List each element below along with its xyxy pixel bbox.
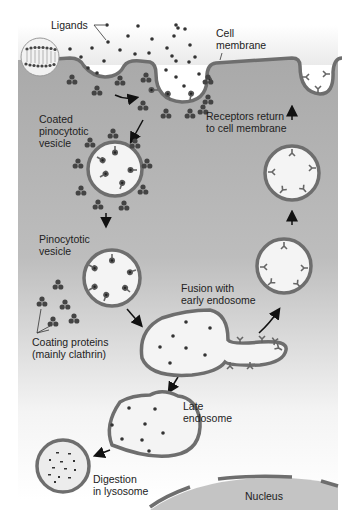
endocytosis-diagram: [0, 0, 357, 515]
label-ligands: Ligands: [51, 19, 88, 31]
recycling-vesicle-upper: [265, 146, 319, 200]
label-cell-membrane: Cell membrane: [216, 27, 266, 51]
label-late-endosome: Late endosome: [183, 400, 232, 424]
label-receptors-return: Receptors return to cell membrane: [206, 110, 287, 134]
pinocytotic-vesicle: [84, 250, 140, 306]
label-fusion: Fusion with early endosome: [181, 282, 256, 306]
lipid-bilayer-inset: [21, 38, 59, 76]
label-nucleus: Nucleus: [245, 490, 283, 502]
label-pinocytotic-vesicle: Pinocytotic vesicle: [39, 233, 90, 257]
label-coating-proteins: Coating proteins (mainly clathrin): [32, 336, 108, 360]
lysosome: [37, 440, 89, 492]
label-coated-vesicle: Coated pinocytotic vesicle: [39, 113, 89, 149]
recycling-vesicle-lower: [257, 239, 311, 293]
label-digestion: Digestion in lysosome: [93, 473, 148, 497]
